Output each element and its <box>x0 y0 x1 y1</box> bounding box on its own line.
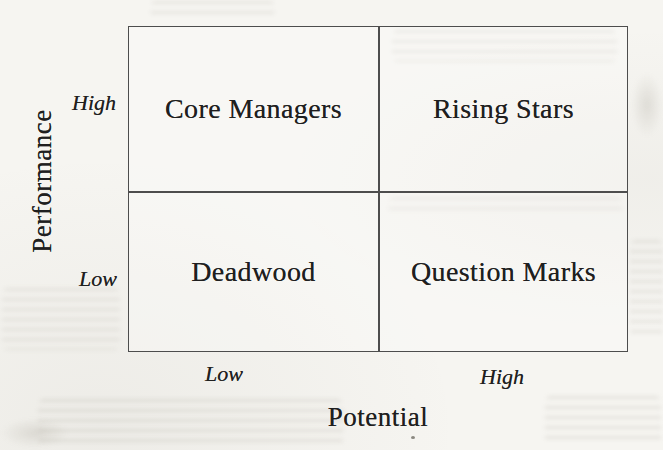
x-axis-tick-high: High <box>480 364 524 390</box>
scan-artifact <box>545 396 661 444</box>
quadrant-top-right: Rising Stars <box>379 26 628 192</box>
quadrant-label: Core Managers <box>165 93 342 125</box>
quadrant-label: Deadwood <box>191 256 316 288</box>
y-axis-title: Performance <box>27 109 58 252</box>
scan-artifact <box>630 240 663 335</box>
quadrant-label: Rising Stars <box>433 93 574 125</box>
quadrant-top-left: Core Managers <box>128 26 379 192</box>
scan-artifact <box>150 1 275 16</box>
scan-artifact <box>2 288 120 350</box>
scan-artifact <box>0 418 70 448</box>
ink-speck <box>411 436 415 439</box>
quadrant-bottom-right: Question Marks <box>379 192 628 352</box>
scan-artifact <box>38 399 343 445</box>
y-axis-tick-high: High <box>72 90 116 116</box>
quadrant-label: Question Marks <box>411 256 596 288</box>
x-axis-tick-low: Low <box>205 361 243 387</box>
y-axis-tick-low: Low <box>79 266 117 292</box>
x-axis-title: Potential <box>328 402 429 433</box>
scanned-book-page: Core Managers Rising Stars Deadwood Ques… <box>0 0 663 450</box>
quadrant-bottom-left: Deadwood <box>128 192 379 352</box>
scan-artifact <box>631 72 663 138</box>
